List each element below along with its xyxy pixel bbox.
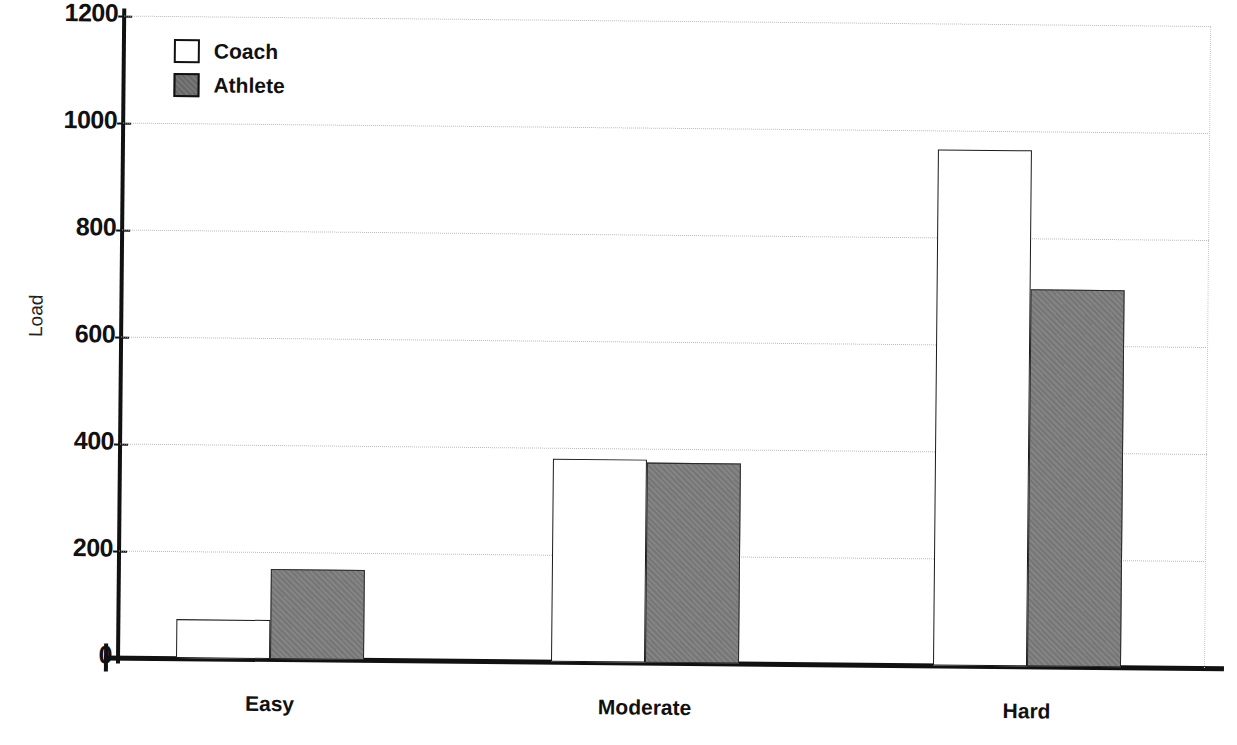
y-tick-label: 1000 [5,104,117,134]
bar-hard-athlete [1027,289,1125,667]
bar-easy-coach [176,620,270,659]
bar-moderate-athlete [645,463,741,663]
chart-legend: Coach Athlete [173,34,285,103]
bar-easy-athlete [270,569,365,660]
category-label-hard: Hard [1003,699,1051,723]
y-tick-label: 600 [3,318,115,348]
category-label-moderate: Moderate [598,695,692,720]
legend-label-coach: Coach [214,39,278,64]
x-axis-origin-tick [104,643,108,671]
gridline [124,16,1211,27]
gridline [122,230,1209,241]
y-axis-ticks: 020040060080010001200 [6,0,1237,11]
legend-item-athlete: Athlete [173,68,285,103]
x-axis-category-labels: EasyModerateHard [6,0,1237,11]
bar-hard-coach [933,149,1032,666]
bar-moderate-coach [551,458,647,662]
y-tick-label: 400 [2,425,114,455]
legend-swatch-coach-icon [174,39,200,63]
gridline [123,123,1210,134]
y-tick-label: 200 [1,532,113,562]
legend-swatch-athlete-icon [173,73,199,97]
plot-area [118,16,1211,668]
legend-label-athlete: Athlete [213,73,284,98]
legend-item-coach: Coach [174,34,286,69]
category-label-easy: Easy [245,692,294,716]
y-tick-label: 1200 [6,0,118,28]
y-tick-label: 0 [0,639,112,669]
y-tick-label: 800 [4,211,116,241]
chart-canvas: Load 020040060080010001200 EasyModerateH… [0,0,1237,745]
gridlines [124,16,1211,26]
